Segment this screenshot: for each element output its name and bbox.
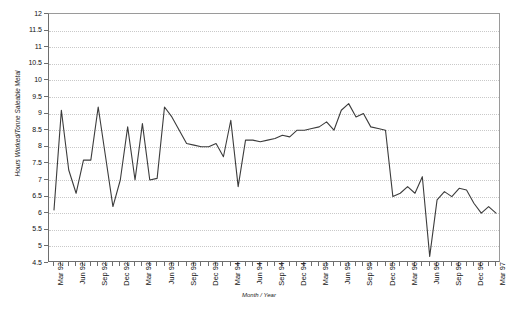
x-tick-label: Sep 93 bbox=[189, 262, 198, 306]
x-tick-label: Mar 92 bbox=[56, 262, 65, 306]
plot-area bbox=[48, 13, 500, 262]
chart-page: Hours Worked / Tonne Saleable Metal Hour… bbox=[0, 0, 518, 311]
x-axis-tick-labels: Mar 92Jun 92Sep 92Dec 92Mar 93Jun 93Sep … bbox=[48, 266, 500, 311]
x-tick-label: Mar 93 bbox=[144, 262, 153, 306]
x-tick-label: Mar 94 bbox=[233, 262, 242, 306]
y-tick-mark bbox=[44, 229, 48, 230]
x-tick-label: Sep 94 bbox=[277, 262, 286, 306]
y-tick-label: 4.5 bbox=[0, 259, 42, 266]
x-tick-label: Jun 92 bbox=[78, 262, 87, 306]
x-tick-label: Mar 95 bbox=[321, 262, 330, 306]
chart-title: Hours Worked / Tonne Saleable Metal bbox=[0, 0, 518, 4]
y-tick-label: 6 bbox=[0, 209, 42, 216]
y-tick-mark bbox=[44, 262, 48, 263]
y-tick-mark bbox=[44, 245, 48, 246]
y-tick-mark bbox=[44, 63, 48, 64]
y-tick-label: 7.5 bbox=[0, 159, 42, 166]
y-tick-mark bbox=[44, 146, 48, 147]
x-tick-label: Jun 96 bbox=[432, 262, 441, 306]
y-tick-label: 8.5 bbox=[0, 126, 42, 133]
x-tick-label: Dec 95 bbox=[388, 262, 397, 306]
x-tick-label: Sep 96 bbox=[454, 262, 463, 306]
y-tick-mark bbox=[44, 30, 48, 31]
x-tick-label: Mar 97 bbox=[498, 262, 507, 306]
y-axis-tick-labels: 1211.51110.5109.598.587.576.565.554.5 bbox=[0, 13, 44, 262]
x-tick-label: Sep 92 bbox=[100, 262, 109, 306]
y-tick-label: 9 bbox=[0, 109, 42, 116]
y-tick-mark bbox=[44, 162, 48, 163]
y-tick-label: 10 bbox=[0, 76, 42, 83]
y-tick-label: 5.5 bbox=[0, 225, 42, 232]
y-tick-mark bbox=[44, 113, 48, 114]
y-tick-mark bbox=[44, 13, 48, 14]
data-series-line bbox=[49, 14, 501, 263]
x-tick-label: Jun 94 bbox=[255, 262, 264, 306]
x-tick-label: Dec 94 bbox=[299, 262, 308, 306]
y-tick-label: 9.5 bbox=[0, 93, 42, 100]
y-tick-label: 5 bbox=[0, 242, 42, 249]
x-tick-label: Mar 96 bbox=[410, 262, 419, 306]
y-tick-mark bbox=[44, 179, 48, 180]
y-tick-mark bbox=[44, 79, 48, 80]
y-tick-mark bbox=[44, 96, 48, 97]
y-tick-label: 12 bbox=[0, 10, 42, 17]
y-tick-label: 11.5 bbox=[0, 26, 42, 33]
x-axis-title: Month / Year bbox=[0, 292, 518, 298]
y-tick-mark bbox=[44, 196, 48, 197]
x-tick-label: Jun 95 bbox=[343, 262, 352, 306]
x-tick-label: Dec 92 bbox=[122, 262, 131, 306]
y-tick-label: 11 bbox=[0, 43, 42, 50]
y-tick-label: 10.5 bbox=[0, 59, 42, 66]
x-tick-label: Jun 93 bbox=[167, 262, 176, 306]
x-tick-label: Sep 95 bbox=[365, 262, 374, 306]
y-tick-label: 7 bbox=[0, 176, 42, 183]
y-tick-label: 6.5 bbox=[0, 192, 42, 199]
y-tick-label: 8 bbox=[0, 142, 42, 149]
y-tick-mark bbox=[44, 46, 48, 47]
y-tick-mark bbox=[44, 212, 48, 213]
y-tick-mark bbox=[44, 129, 48, 130]
x-tick-label: Dec 96 bbox=[476, 262, 485, 306]
x-tick-label: Dec 93 bbox=[211, 262, 220, 306]
